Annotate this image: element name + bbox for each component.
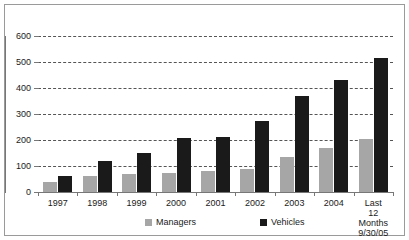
legend-swatch-icon bbox=[145, 219, 152, 226]
y-tick-label-100: 100 bbox=[5, 162, 31, 171]
bar-vehicles-2000 bbox=[177, 138, 191, 192]
y-tick-mark-300 bbox=[34, 114, 39, 115]
bar-managers-1998 bbox=[83, 176, 97, 192]
x-tick-label-line: 1997 bbox=[38, 198, 77, 208]
bar-managers-2001 bbox=[201, 171, 215, 192]
bar-managers-2000 bbox=[162, 173, 176, 192]
y-tick-mark-500 bbox=[34, 62, 39, 63]
bar-managers-Last bbox=[359, 139, 373, 192]
bar-group bbox=[275, 36, 314, 192]
bar-group bbox=[156, 36, 195, 192]
x-tick-mark-6 bbox=[275, 192, 276, 196]
x-tick-mark-3 bbox=[156, 192, 157, 196]
legend-item-vehicles[interactable]: Vehicles bbox=[260, 217, 305, 227]
bar-vehicles-2003 bbox=[295, 96, 309, 192]
bar-group bbox=[77, 36, 116, 192]
x-tick-mark-8 bbox=[354, 192, 355, 196]
bar-managers-2002 bbox=[240, 169, 254, 192]
y-tick-label-0: 0 bbox=[5, 188, 31, 197]
x-tick-mark-5 bbox=[235, 192, 236, 196]
y-tick-label-600: 600 bbox=[5, 32, 31, 41]
y-tick-mark-200 bbox=[34, 140, 39, 141]
x-tick-label-1997: 1997 bbox=[38, 198, 77, 208]
bar-vehicles-1998 bbox=[98, 161, 112, 192]
y-tick-label-500: 500 bbox=[5, 58, 31, 67]
x-tick-mark-4 bbox=[196, 192, 197, 196]
x-tick-label-line: 2000 bbox=[156, 198, 195, 208]
x-tick-mark-0 bbox=[38, 192, 39, 196]
x-tick-label-line: 2004 bbox=[314, 198, 353, 208]
legend-swatch-icon bbox=[260, 219, 267, 226]
y-tick-label-400: 400 bbox=[5, 84, 31, 93]
x-tick-mark-2 bbox=[117, 192, 118, 196]
x-tick-label-2002: 2002 bbox=[235, 198, 274, 208]
x-tick-mark-1 bbox=[77, 192, 78, 196]
plot-area bbox=[38, 31, 393, 193]
bar-vehicles-1999 bbox=[137, 153, 151, 192]
y-tick-mark-100 bbox=[34, 166, 39, 167]
bar-vehicles-2001 bbox=[216, 137, 230, 192]
x-tick-label-line: Last bbox=[354, 198, 393, 208]
bar-vehicles-2002 bbox=[255, 121, 269, 192]
chart-legend: ManagersVehicles bbox=[5, 217, 406, 231]
x-tick-label-2004: 2004 bbox=[314, 198, 353, 208]
x-tick-mark-7 bbox=[314, 192, 315, 196]
legend-item-managers[interactable]: Managers bbox=[145, 217, 196, 227]
x-axis-line bbox=[38, 192, 394, 193]
x-tick-label-2000: 2000 bbox=[156, 198, 195, 208]
x-tick-label-line: 2003 bbox=[275, 198, 314, 208]
bar-vehicles-1997 bbox=[58, 176, 72, 192]
plot-inner bbox=[38, 36, 393, 192]
x-tick-label-line: 2002 bbox=[235, 198, 274, 208]
bar-vehicles-2004 bbox=[334, 80, 348, 192]
chart-frame: 0100200300400500600 19971998199920002001… bbox=[4, 4, 405, 236]
x-tick-label-line: 2001 bbox=[196, 198, 235, 208]
bar-managers-2004 bbox=[319, 148, 333, 192]
x-tick-label-2003: 2003 bbox=[275, 198, 314, 208]
legend-label: Managers bbox=[156, 217, 196, 227]
bar-vehicles-Last bbox=[374, 58, 388, 192]
y-tick-mark-600 bbox=[34, 36, 39, 37]
x-tick-label-1998: 1998 bbox=[77, 198, 116, 208]
x-tick-label-line: 1999 bbox=[117, 198, 156, 208]
y-tick-mark-400 bbox=[34, 88, 39, 89]
bar-group bbox=[117, 36, 156, 192]
bar-managers-1997 bbox=[43, 182, 57, 192]
x-tick-label-1999: 1999 bbox=[117, 198, 156, 208]
bar-group bbox=[354, 36, 393, 192]
x-tick-mark-end bbox=[393, 192, 394, 196]
legend-label: Vehicles bbox=[271, 217, 305, 227]
y-tick-label-200: 200 bbox=[5, 136, 31, 145]
bar-group bbox=[314, 36, 353, 192]
x-tick-label-line: 1998 bbox=[77, 198, 116, 208]
bar-managers-2003 bbox=[280, 157, 294, 192]
bar-group bbox=[235, 36, 274, 192]
y-tick-label-300: 300 bbox=[5, 110, 31, 119]
x-tick-label-2001: 2001 bbox=[196, 198, 235, 208]
bar-group bbox=[196, 36, 235, 192]
bar-group bbox=[38, 36, 77, 192]
bar-managers-1999 bbox=[122, 174, 136, 192]
